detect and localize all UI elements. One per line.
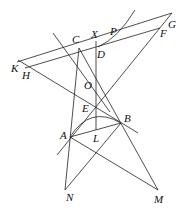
label-b: B [124,112,131,124]
geometry-diagram: C X P G F D K H O E B A L N M [0,0,184,217]
label-a: A [59,129,67,141]
label-g: G [168,18,176,30]
line-a-m [70,137,158,190]
label-d: D [96,48,105,60]
label-p: P [109,25,117,37]
label-c: C [72,33,80,45]
line-c-n [65,48,79,190]
label-l: L [92,132,99,144]
label-h: H [21,69,31,81]
label-m: M [153,193,164,205]
label-f: F [159,27,167,39]
label-x: X [90,28,99,40]
label-k: K [10,62,19,74]
label-n: N [65,191,74,203]
label-o: O [84,79,92,91]
line-c-m [79,48,158,190]
label-e: E [81,102,89,114]
